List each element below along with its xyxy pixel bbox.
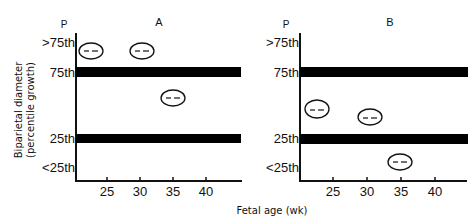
panel-a-xtick-25: 25 xyxy=(100,184,114,199)
panel-a-p-marker: P xyxy=(61,19,68,30)
panel-b-p-marker: P xyxy=(283,19,290,30)
panel-a-band-25th xyxy=(76,134,241,143)
panel-b-xtick-40: 40 xyxy=(428,184,442,199)
panel-b-band-25th xyxy=(300,134,468,144)
panel-b-ylabel-lt25: <25th xyxy=(266,160,299,175)
panel-b-ylabel-75: 75th xyxy=(274,65,299,80)
panel-b-point-2 xyxy=(358,109,382,125)
svg-text:Biparietal diameter: Biparietal diameter xyxy=(13,61,24,158)
y-axis-title: Biparietal diameter (percentile growth) xyxy=(13,61,36,158)
panel-a-point-2 xyxy=(130,43,154,59)
panel-b: B P >75th 75th 25th <25th 25 30 35 40 xyxy=(266,16,468,199)
panel-a-point-3 xyxy=(161,90,185,106)
svg-text:(percentile growth): (percentile growth) xyxy=(25,62,36,158)
panel-b-xtick-35: 35 xyxy=(394,184,408,199)
panel-a-point-1 xyxy=(79,43,103,59)
panel-b-band-75th xyxy=(300,67,468,77)
panel-b-point-1 xyxy=(305,100,329,118)
panel-a-ylabel-75: 75th xyxy=(50,65,75,80)
panel-a-xtick-30: 30 xyxy=(133,184,147,199)
panel-a-xtick-40: 40 xyxy=(199,184,213,199)
panel-a-xtick-35: 35 xyxy=(166,184,180,199)
panel-a-ylabel-25: 25th xyxy=(50,131,75,146)
x-axis-title: Fetal age (wk) xyxy=(237,205,308,216)
panel-a-band-75th xyxy=(76,67,241,77)
panel-b-point-3 xyxy=(388,154,412,170)
panel-a-ylabel-gt75: >75th xyxy=(42,35,75,50)
panel-a: A P >75th 75th 25th <25th 25 30 35 40 xyxy=(42,16,242,199)
panel-b-ylabel-gt75: >75th xyxy=(266,35,299,50)
panel-b-xtick-30: 30 xyxy=(360,184,374,199)
panel-a-title: A xyxy=(155,16,163,28)
chart-figure: Biparietal diameter (percentile growth) … xyxy=(0,0,475,219)
panel-b-xtick-25: 25 xyxy=(326,184,340,199)
panel-b-ylabel-25: 25th xyxy=(274,131,299,146)
panel-a-ylabel-lt25: <25th xyxy=(42,160,75,175)
panel-b-title: B xyxy=(386,16,393,28)
